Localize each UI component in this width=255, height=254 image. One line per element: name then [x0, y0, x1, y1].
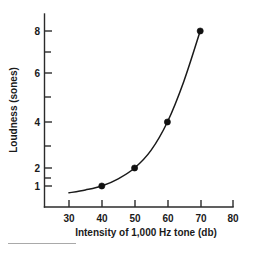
x-tick-label-50: 50	[129, 213, 141, 224]
chart-figure: 8 6 4 2 1 Loudness (sones) 30 40 50 60 7…	[0, 0, 255, 254]
footnote-divider	[8, 243, 76, 244]
x-tick-label-80: 80	[227, 213, 239, 224]
data-point-60-4	[164, 119, 170, 125]
x-axis-title: Intensity of 1,000 Hz tone (db)	[75, 227, 217, 238]
y-tick-label-1: 1	[34, 181, 40, 192]
data-point-40-1	[99, 183, 105, 189]
y-tick-label-4: 4	[34, 117, 40, 128]
y-tick-label-2: 2	[34, 163, 40, 174]
x-tick-label-60: 60	[162, 213, 174, 224]
y-axis-title: Loudness (sones)	[8, 67, 19, 153]
y-tick-label-6: 6	[34, 68, 40, 79]
x-tick-label-70: 70	[195, 213, 207, 224]
loudness-intensity-chart: 8 6 4 2 1 Loudness (sones) 30 40 50 60 7…	[0, 0, 255, 254]
data-point-50-2	[132, 165, 138, 171]
y-tick-label-8: 8	[34, 26, 40, 37]
x-tick-label-30: 30	[63, 213, 75, 224]
x-tick-label-40: 40	[96, 213, 108, 224]
data-point-70-8	[197, 28, 203, 34]
